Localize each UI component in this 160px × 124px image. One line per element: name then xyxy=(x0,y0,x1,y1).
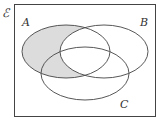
set-a-label: A xyxy=(21,16,30,29)
set-b-label: B xyxy=(139,16,148,29)
universal-set-label: ℰ xyxy=(2,6,11,20)
venn-diagram: ℰ A B C xyxy=(0,0,160,124)
set-c-label: C xyxy=(120,98,129,111)
